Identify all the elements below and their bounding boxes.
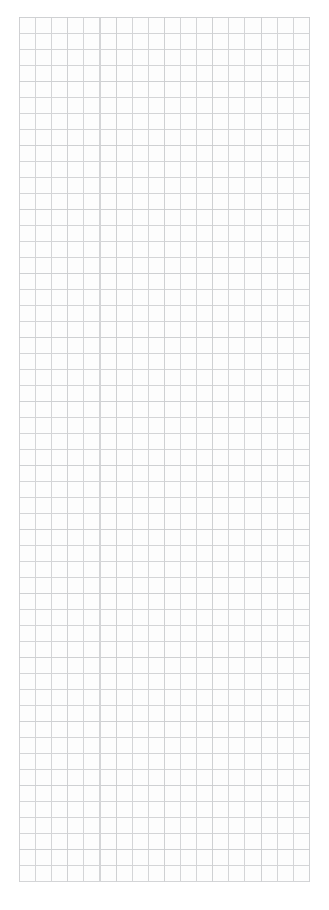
graph-paper-page [0, 0, 329, 910]
grid-pattern [19, 17, 310, 882]
